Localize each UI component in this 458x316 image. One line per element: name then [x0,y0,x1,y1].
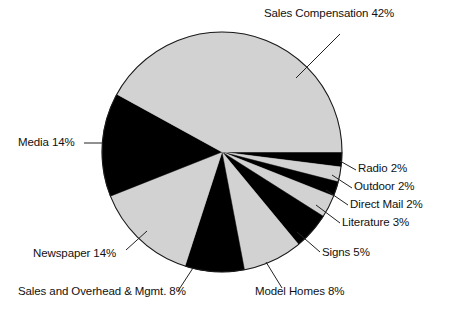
slice-label-literature: Literature 3% [342,216,409,229]
slice-label-direct-mail: Direct Mail 2% [350,198,423,211]
slice-label-radio: Radio 2% [358,162,407,175]
leader-line-sales-compensation [296,34,340,78]
slice-label-signs: Signs 5% [322,246,370,259]
slice-label-sales-compensation: Sales Compensation 42% [264,7,394,20]
leader-line-radio [340,161,356,170]
slice-label-sales-and-overhead: Sales and Overhead & Mgmt. 8% [18,285,186,298]
slice-label-outdoor: Outdoor 2% [354,180,414,193]
pie-chart-svg [0,0,458,316]
pie-chart-figure: Sales Compensation 42% Radio 2% Outdoor … [0,0,458,316]
slice-label-media: Media 14% [18,136,75,149]
slice-label-newspaper: Newspaper 14% [33,247,116,260]
slice-label-model-homes: Model Homes 8% [255,285,344,298]
